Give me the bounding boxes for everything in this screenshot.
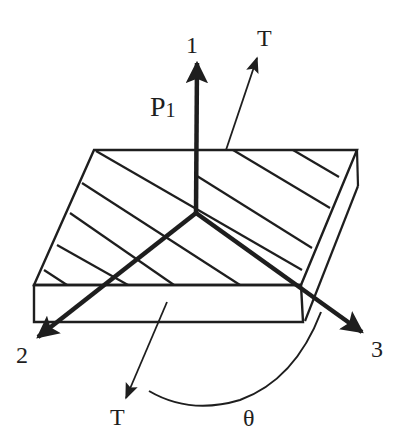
angle-arc (149, 312, 321, 406)
plate-corner-edge (357, 150, 358, 186)
load-symbol: P (150, 91, 166, 122)
fiber-line (44, 270, 67, 285)
tension-arrow-top (226, 58, 257, 150)
material-axes (38, 63, 362, 337)
fiber-line (293, 150, 339, 177)
fiber-line (82, 183, 240, 285)
fiber-line (70, 213, 174, 285)
angle-theta-label: θ (243, 406, 255, 430)
diagram-canvas (0, 0, 409, 444)
tension-label-bottom: T (110, 405, 125, 429)
load-p1-label: P1 (150, 93, 176, 121)
tension-arrows (126, 58, 257, 398)
angle-arc-theta (149, 312, 321, 406)
fiber-line (233, 150, 330, 208)
laminate-ply-diagram: 1 2 3 P1 T T θ (0, 0, 409, 444)
fiber-line (57, 245, 128, 285)
axis-1-label: 1 (186, 33, 198, 57)
axis-1-arrow (196, 63, 197, 213)
load-subscript: 1 (166, 99, 176, 121)
axis-3-label: 3 (371, 337, 383, 361)
axis-2-arrow (38, 213, 196, 337)
tension-arrow-bottom (126, 302, 167, 398)
tension-label-top: T (257, 26, 272, 50)
axis-2-label: 2 (16, 343, 28, 367)
plate-front-face (34, 285, 303, 322)
